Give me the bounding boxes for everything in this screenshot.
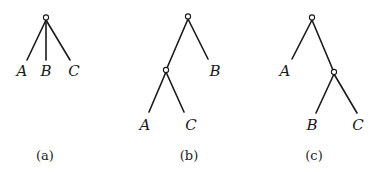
edge-inner-b	[316, 74, 334, 113]
inner-node	[331, 69, 336, 74]
edge-root-a	[27, 20, 46, 60]
leaf-label-b: B	[305, 116, 317, 134]
edge-inner-a	[149, 72, 166, 112]
root-node	[185, 14, 190, 19]
leaf-label-a: A	[138, 116, 151, 134]
leaf-label-a: A	[278, 62, 291, 80]
panel-c: A B C (c)	[278, 15, 365, 163]
leaf-label-c: C	[185, 116, 197, 134]
root-node	[309, 15, 314, 20]
edge-root-inner	[167, 19, 188, 68]
edge-root-b	[188, 19, 208, 59]
leaf-label-b: B	[208, 62, 220, 80]
panel-a: A B C (a)	[15, 15, 81, 163]
panel-b: B A C (b)	[138, 14, 221, 163]
edge-inner-c	[334, 74, 357, 113]
root-node	[43, 15, 48, 20]
leaf-label-c: C	[352, 116, 364, 134]
panel-caption-c: (c)	[305, 148, 322, 163]
tree-figure: A B C (a) B A C (b) A B C (c)	[0, 0, 378, 172]
edge-inner-c	[166, 72, 184, 112]
edge-root-c	[46, 20, 70, 60]
edge-root-a	[292, 20, 312, 59]
leaf-label-b: B	[39, 62, 51, 80]
edge-root-inner	[312, 20, 333, 70]
inner-node	[163, 67, 168, 72]
panel-caption-a: (a)	[36, 148, 54, 163]
leaf-label-c: C	[68, 62, 80, 80]
panel-caption-b: (b)	[180, 148, 198, 163]
leaf-label-a: A	[15, 62, 28, 80]
